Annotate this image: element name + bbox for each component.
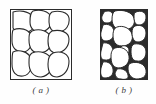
panel-b-frame: [100, 9, 148, 80]
panel-b-microstructure: [101, 10, 147, 79]
panel-a-frame: [10, 9, 72, 80]
panel-a-caption: ( a ): [10, 85, 72, 95]
panel-a-microstructure: [11, 10, 71, 79]
figure-container: ( a ): [0, 0, 156, 104]
panel-b-caption: ( b ): [100, 85, 148, 95]
